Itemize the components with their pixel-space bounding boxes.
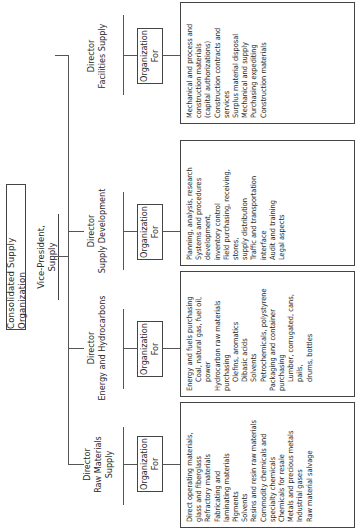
director-supply-development: Director Supply Development	[86, 178, 108, 284]
director-raw-line1: Director	[82, 417, 93, 512]
responsibility-item: Raw material salvage	[305, 408, 314, 522]
vp-connector	[50, 256, 69, 257]
responsibility-item: Refractory materials	[203, 408, 212, 522]
responsibility-item: Industrial gases	[295, 408, 304, 522]
responsibility-item: Systems and procedures development,	[194, 146, 212, 260]
energy-drop	[68, 348, 84, 349]
org-box-development: Organization For	[137, 204, 163, 260]
responsibility-item: services	[222, 8, 231, 118]
director-energy-line1: Director	[86, 289, 97, 407]
vp-label: Vice-President, Supply	[35, 214, 59, 300]
trunk-line	[68, 55, 69, 465]
org-label-line2: For	[150, 50, 161, 63]
responsibility-item: construction materials	[194, 8, 203, 118]
raw-bar	[123, 427, 124, 505]
responsibility-item: Hydrocarbon raw materials purchasing	[213, 277, 231, 391]
detail-box-facilities: Mechanical and process andconstruction m…	[180, 2, 355, 124]
responsibility-item: Purchasing expediting	[249, 8, 258, 118]
director-energy: Director Energy and Hydrocarbons	[86, 289, 108, 407]
responsibility-item: Coal, natural gas, fuel oil,	[194, 277, 203, 391]
org-box-raw: Organization For	[137, 436, 163, 492]
responsibility-item: Construction contracts and	[213, 8, 222, 118]
facilities-drop	[55, 55, 69, 56]
energy-bar	[123, 309, 124, 389]
director-facilities: Director Facilities Supply	[86, 0, 108, 112]
responsibility-item: glass and fiberglass	[194, 408, 203, 522]
org-label-line1: Organization	[139, 323, 150, 375]
responsibility-item: Audit and training	[268, 146, 277, 260]
responsibility-item: supply distribution	[240, 146, 249, 260]
responsibility-item: Solvents	[249, 277, 258, 391]
responsibility-item: inventory control	[213, 146, 222, 260]
responsibility-item: Pigments	[231, 408, 240, 522]
responsibility-item: Planning, analysis, research	[185, 146, 194, 260]
director-energy-line2: Energy and Hydrocarbons	[97, 289, 108, 407]
responsibility-item: specialty chemicals	[268, 408, 277, 522]
org-box-energy: Organization For	[137, 321, 163, 377]
responsibility-item: (capital authorizations)	[203, 8, 212, 118]
responsibility-item: power	[203, 277, 212, 391]
responsibility-item: Petrochemicals, polystyrene	[259, 277, 268, 391]
director-raw-materials: Director Raw Materials Supply	[82, 417, 115, 512]
responsibility-item: Traffic and transportation interface	[249, 146, 267, 260]
org-box-facilities: Organization For	[137, 28, 163, 84]
director-facilities-line1: Director	[86, 0, 97, 112]
responsibility-item: Field purchasing, receiving, stores,	[222, 146, 240, 260]
responsibility-item: Energy and fuels purchasing	[185, 277, 194, 391]
responsibility-item: Metals and precious metals	[286, 408, 295, 522]
responsibility-item: Packaging and container purchasing	[268, 277, 286, 391]
org-label-line1: Organization	[139, 438, 150, 490]
responsibility-item: Direct operating materials,	[185, 408, 194, 522]
org-chart: Consolidated Supply Organization Vice-Pr…	[0, 0, 359, 532]
director-development-line2: Supply Development	[97, 178, 108, 284]
detail-box-development: Planning, analysis, researchSystems and …	[180, 140, 355, 266]
development-drop	[68, 231, 84, 232]
responsibility-item: Solvents	[240, 408, 249, 522]
responsibility-item: Lumber, corrugated, cans, pails,	[286, 277, 304, 391]
chart-title: Consolidated Supply Organization	[5, 185, 27, 329]
responsibility-item: Olefins, aromatics	[231, 277, 240, 391]
responsibility-item: Mechanical and supply	[240, 8, 249, 118]
responsibility-item: laminating materials	[222, 408, 231, 522]
responsibility-item: Resins and resin raw materials	[249, 408, 258, 522]
responsibility-item: drums, bottles	[305, 277, 314, 391]
chart-title-box: Consolidated Supply Organization	[6, 184, 26, 330]
org-label-line2: For	[150, 458, 161, 471]
director-raw-line2: Raw Materials	[93, 417, 104, 512]
org-label-line2: For	[150, 343, 161, 356]
responsibility-item: Mechanical and process and	[185, 8, 194, 118]
responsibility-item: Surplus material disposal	[231, 8, 240, 118]
org-label-line1: Organization	[139, 206, 150, 258]
director-development-line1: Director	[86, 178, 97, 284]
responsibility-item: Chemicals for resale	[277, 408, 286, 522]
detail-box-raw: Direct operating materials,glass and fib…	[180, 402, 355, 528]
detail-box-energy: Energy and fuels purchasingCoal, natural…	[180, 271, 355, 397]
responsibility-item: Commodity chemicals and	[259, 408, 268, 522]
org-label-line1: Organization	[139, 30, 150, 82]
vp-title: Vice-President, Supply	[35, 225, 57, 289]
responsibility-item: Dibasic acids	[240, 277, 249, 391]
facilities-tick	[55, 55, 56, 56]
org-label-line2: For	[150, 226, 161, 239]
director-facilities-line2: Facilities Supply	[97, 0, 108, 112]
responsibility-item: Legal aspects	[277, 146, 286, 260]
responsibility-item: Fabricating and	[213, 408, 222, 522]
director-raw-line3: Supply	[104, 417, 115, 512]
responsibility-item: Construction materials	[259, 8, 268, 118]
